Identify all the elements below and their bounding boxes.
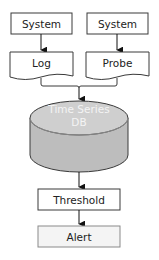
system-right-node: System [87,13,148,34]
time-series-db-node: Time Series DB [30,101,128,172]
alert-node: Alert [38,226,120,247]
log-label: Log [32,57,51,69]
probe-node: Probe [86,52,149,80]
system-left-node: System [11,13,72,34]
log-node: Log [10,52,73,80]
probe-label: Probe [103,57,133,69]
threshold-label: Threshold [52,194,105,206]
alert-label: Alert [67,231,92,243]
system-left-label: System [22,18,61,30]
db-label-line2: DB [71,116,86,128]
db-label-line1: Time Series [47,103,109,115]
monitoring-flow-diagram: System System Log Probe Time Series DB T… [0,0,159,260]
system-right-label: System [98,18,137,30]
threshold-node: Threshold [38,189,120,210]
